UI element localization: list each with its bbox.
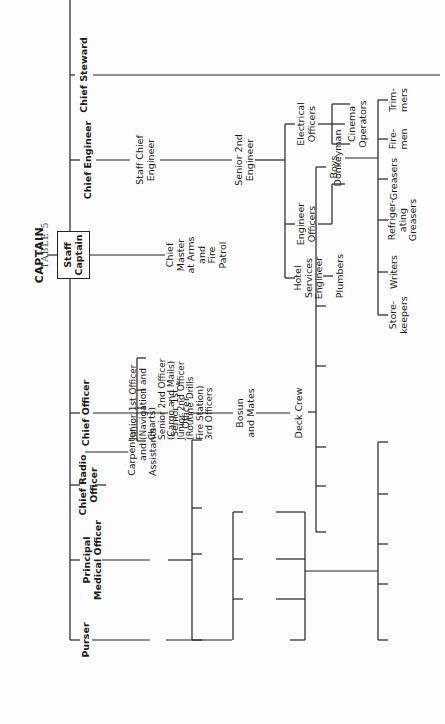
rating-trimmers: Trim- mers [388, 88, 409, 112]
org-chart: CAPTAIN Staff Captain Chief Steward Chie… [0, 0, 445, 724]
cinema-operators: Cinema Operators [347, 100, 368, 147]
rating-storekeepers: Store- keepers [388, 296, 409, 334]
crew-boys: Boys [329, 156, 340, 179]
senior-1st-officer: Senior 1st Officer [170, 389, 191, 437]
chief-engineer: Chief Engineer [83, 121, 94, 200]
3rd-officers: 3rd Officers [204, 387, 214, 440]
engineer-officers: Engineer Officers [296, 203, 317, 245]
senior-2nd-engineer: Senior 2nd Engineer [234, 134, 255, 185]
plumbers: Plumbers [335, 254, 346, 298]
bosun-and-mates: Bosun and Mates [235, 388, 256, 437]
master-at-arms-fire-patrol: Chief Master at Arms and Fire Patrol [165, 236, 228, 273]
staff-chief-engineer: Staff Chief Engineer [135, 135, 156, 185]
purser: Purser [81, 622, 92, 657]
electrical-officers: Electrical Officers [296, 102, 317, 146]
chief-officer: Chief Officer [81, 380, 92, 446]
deck-crew: Deck Crew [294, 388, 305, 439]
staff-captain-label: Staff Captain [63, 234, 84, 275]
captain-label: CAPTAIN [35, 227, 46, 284]
carpenter-and-assistants: Carpenter and Assistants [127, 428, 159, 476]
principal-medical-officer: Principal Medical Officer [82, 520, 103, 600]
connector-lines [0, 0, 445, 724]
chief-radio-officer: Chief Radio Officer [78, 454, 99, 515]
chief-steward: Chief Steward [79, 37, 90, 112]
rating-firemen: Fire- men [388, 128, 409, 149]
rating-refrigerating-greasers: Refriger- ating Greasers [387, 199, 419, 241]
rating-greasers: Greasers [389, 158, 400, 200]
hotel-services-engineer: Hotel Services Engineer [293, 257, 325, 299]
rating-writers: Writers [389, 255, 400, 289]
book-page: TABLE 5 [0, 0, 445, 724]
